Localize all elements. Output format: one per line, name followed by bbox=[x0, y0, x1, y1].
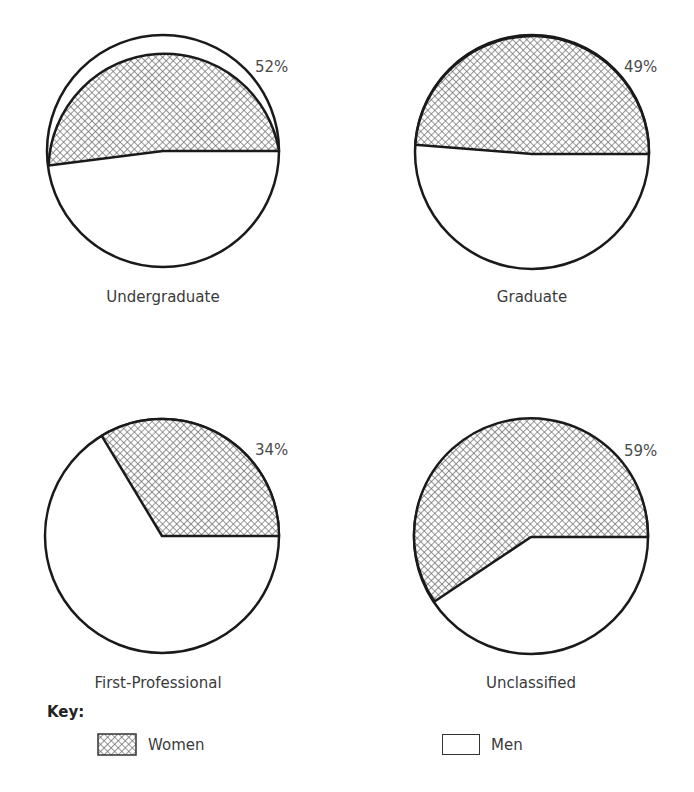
blank-swatch-icon bbox=[442, 734, 480, 755]
pie-graduate: 49% Graduate bbox=[415, 35, 657, 306]
pct-label: 59% bbox=[624, 442, 657, 460]
pie-title: Undergraduate bbox=[106, 288, 219, 306]
pct-label: 49% bbox=[624, 58, 657, 76]
pie-title: First-Professional bbox=[94, 674, 221, 692]
crosshatch-swatch-icon bbox=[97, 733, 137, 756]
pie-unclassified: 59% Unclassified bbox=[414, 418, 657, 692]
legend-item-men: Men bbox=[442, 734, 523, 755]
legend-label: Women bbox=[148, 736, 204, 754]
pct-label: 34% bbox=[255, 441, 288, 459]
pie-title: Graduate bbox=[497, 288, 567, 306]
legend-title: Key: bbox=[47, 703, 84, 721]
pie-undergraduate: 52% Undergraduate bbox=[47, 35, 288, 306]
pie-women-slice bbox=[415, 36, 649, 154]
pie-chart-grid: 52% Undergraduate 49% Graduate 34% First… bbox=[0, 0, 694, 792]
pie-first-professional: 34% First-Professional bbox=[45, 419, 288, 692]
legend-label: Men bbox=[491, 736, 523, 754]
legend-item-women: Women bbox=[97, 733, 204, 756]
pct-label: 52% bbox=[255, 58, 288, 76]
pie-title: Unclassified bbox=[486, 674, 576, 692]
